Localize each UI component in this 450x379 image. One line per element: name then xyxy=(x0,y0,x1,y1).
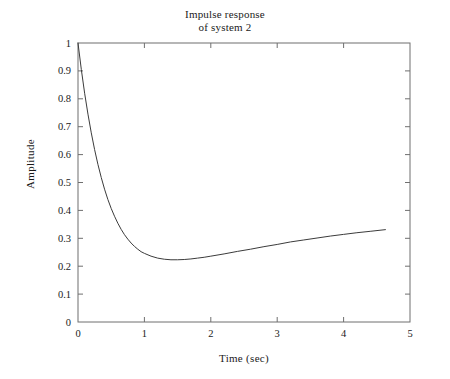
x-tick-label-2: 2 xyxy=(208,328,213,339)
y-axis-tick-labels: 00.10.20.30.40.50.60.70.80.91 xyxy=(58,38,72,328)
y-tick-label-7: 0.7 xyxy=(58,121,71,132)
plot-area: 012345 00.10.20.30.40.50.60.70.80.91 xyxy=(0,0,450,379)
x-tick-label-5: 5 xyxy=(407,328,412,339)
y-axis-ticks xyxy=(78,71,410,294)
y-tick-label-4: 0.4 xyxy=(58,205,72,216)
chart-page: Impulse response of system 2 012345 00.1… xyxy=(0,0,450,379)
y-tick-label-0: 0 xyxy=(66,317,71,328)
y-tick-label-9: 0.9 xyxy=(58,65,71,76)
x-axis-ticks xyxy=(144,43,343,322)
y-tick-label-1: 0.1 xyxy=(58,289,71,300)
y-tick-label-10: 1 xyxy=(66,38,71,49)
x-axis-label: Time (sec) xyxy=(78,352,410,364)
y-tick-label-5: 0.5 xyxy=(58,177,71,188)
y-tick-label-2: 0.2 xyxy=(58,261,71,272)
y-tick-label-6: 0.6 xyxy=(58,149,71,160)
y-tick-label-8: 0.8 xyxy=(58,93,71,104)
y-tick-label-3: 0.3 xyxy=(58,233,71,244)
x-axis-tick-labels: 012345 xyxy=(75,328,412,339)
x-tick-label-4: 4 xyxy=(341,328,347,339)
plot-frame xyxy=(78,43,410,322)
x-tick-label-3: 3 xyxy=(275,328,280,339)
x-tick-label-0: 0 xyxy=(75,328,80,339)
plot-box xyxy=(78,43,410,322)
x-tick-label-1: 1 xyxy=(142,328,147,339)
impulse-response-curve xyxy=(78,43,385,260)
y-axis-label: Amplitude xyxy=(24,118,36,210)
